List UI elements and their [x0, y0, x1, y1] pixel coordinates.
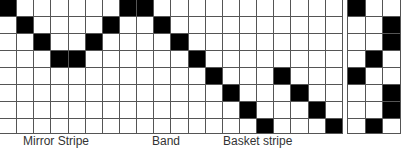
grid-cell-empty	[383, 68, 401, 85]
grid-cell-empty	[17, 51, 34, 68]
grid-cell-empty	[0, 34, 17, 51]
grid-cell-filled	[69, 51, 86, 68]
grid-cell-empty	[154, 0, 171, 17]
grid-cell-filled	[383, 17, 401, 34]
grid-cell-empty	[120, 51, 137, 68]
grid-cell-empty	[51, 119, 68, 134]
grid-cell-empty	[257, 102, 274, 119]
grid-cell-empty	[86, 85, 103, 102]
grid-cell-empty	[86, 102, 103, 119]
grid-cell-empty	[326, 68, 343, 85]
grid-cell-empty	[120, 102, 137, 119]
grid-cell-empty	[189, 34, 206, 51]
grid-cell-filled	[383, 85, 401, 102]
grid-cell-empty	[103, 119, 120, 134]
grid-cell-empty	[383, 0, 401, 17]
grid-cell-filled	[189, 51, 206, 68]
main-pattern-grid	[0, 0, 343, 134]
grid-cell-filled	[291, 85, 308, 102]
grid-cell-empty	[326, 102, 343, 119]
grid-cell-empty	[137, 102, 154, 119]
grid-cell-empty	[69, 17, 86, 34]
side-pattern-grid	[347, 0, 401, 134]
grid-cell-empty	[274, 51, 291, 68]
grid-cell-empty	[223, 17, 240, 34]
grid-cell-filled	[103, 17, 120, 34]
grid-cell-empty	[34, 102, 51, 119]
grid-cell-empty	[274, 0, 291, 17]
grid-cell-filled	[34, 34, 51, 51]
grid-cell-filled	[240, 102, 257, 119]
grid-cell-filled	[86, 34, 103, 51]
grid-cell-empty	[223, 119, 240, 134]
grid-cell-filled	[120, 0, 137, 17]
grid-cell-filled	[383, 102, 401, 119]
grid-cell-empty	[206, 102, 223, 119]
grid-cell-empty	[0, 119, 17, 134]
grid-cell-empty	[137, 85, 154, 102]
grid-cell-empty	[366, 102, 384, 119]
grid-cell-empty	[257, 85, 274, 102]
grid-cell-filled	[257, 119, 274, 134]
grid-cell-empty	[348, 17, 366, 34]
grid-cell-empty	[206, 0, 223, 17]
grid-cell-empty	[326, 17, 343, 34]
grid-cell-filled	[51, 51, 68, 68]
grid-cell-filled	[366, 51, 384, 68]
grid-cell-empty	[189, 85, 206, 102]
grid-cell-empty	[348, 102, 366, 119]
grid-cell-empty	[69, 68, 86, 85]
grid-cell-empty	[103, 0, 120, 17]
grid-cell-empty	[171, 51, 188, 68]
grid-cell-empty	[51, 85, 68, 102]
grid-cell-filled	[383, 34, 401, 51]
grid-cell-empty	[103, 68, 120, 85]
grid-cell-empty	[120, 34, 137, 51]
grid-cell-empty	[309, 17, 326, 34]
grid-cell-empty	[348, 51, 366, 68]
grid-cell-empty	[51, 68, 68, 85]
grid-cell-filled	[366, 119, 384, 134]
grid-cell-empty	[309, 51, 326, 68]
grid-cell-empty	[86, 68, 103, 85]
grid-cell-empty	[223, 102, 240, 119]
grid-cell-filled	[0, 0, 17, 17]
grid-cell-filled	[274, 68, 291, 85]
grid-cell-empty	[0, 17, 17, 34]
grid-cell-empty	[348, 119, 366, 134]
grid-cell-empty	[17, 0, 34, 17]
grid-cell-empty	[120, 68, 137, 85]
grid-cell-empty	[274, 34, 291, 51]
grid-cell-empty	[86, 51, 103, 68]
grid-cell-empty	[0, 85, 17, 102]
grid-cell-empty	[189, 119, 206, 134]
grid-cell-empty	[366, 68, 384, 85]
grid-cell-empty	[69, 119, 86, 134]
grid-cell-filled	[348, 0, 366, 17]
grid-cell-filled	[171, 34, 188, 51]
grid-cell-empty	[206, 17, 223, 34]
grid-cell-empty	[137, 51, 154, 68]
grid-cell-empty	[34, 17, 51, 34]
grid-cell-empty	[326, 34, 343, 51]
grid-cell-empty	[240, 34, 257, 51]
grid-cell-empty	[171, 0, 188, 17]
grid-cell-empty	[291, 51, 308, 68]
grid-cell-empty	[326, 51, 343, 68]
grid-cell-empty	[326, 0, 343, 17]
label-mirror-stripe: Mirror Stripe	[23, 133, 89, 149]
grid-cell-empty	[366, 85, 384, 102]
grid-cell-empty	[206, 119, 223, 134]
label-band: Band	[152, 133, 180, 149]
grid-cell-empty	[69, 102, 86, 119]
grid-cell-empty	[34, 119, 51, 134]
grid-cell-empty	[34, 0, 51, 17]
grid-cell-empty	[103, 85, 120, 102]
grid-cell-empty	[326, 85, 343, 102]
grid-cell-empty	[240, 51, 257, 68]
grid-cell-empty	[171, 102, 188, 119]
grid-cell-empty	[86, 119, 103, 134]
grid-cell-empty	[291, 17, 308, 34]
grid-cell-filled	[154, 17, 171, 34]
grid-cell-empty	[291, 34, 308, 51]
